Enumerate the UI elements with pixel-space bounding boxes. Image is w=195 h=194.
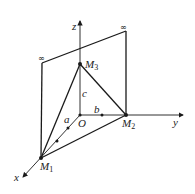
segment-b-label: b xyxy=(94,104,100,115)
x-axis-label: x xyxy=(14,172,19,183)
segment-c-label: c xyxy=(82,88,87,99)
point-a-mark xyxy=(67,127,70,130)
axes xyxy=(23,21,183,177)
point-m3 xyxy=(78,62,82,66)
m3-label: M3 xyxy=(85,59,98,72)
z-axis-label: z xyxy=(72,21,76,32)
diagram-svg xyxy=(0,0,195,194)
origin-label: O xyxy=(78,118,86,129)
diagram-canvas: z y x O M3 M2 M1 a b c ∞ ∞ xyxy=(0,0,195,194)
infinity-mark-right: ∞ xyxy=(120,24,127,32)
m1-label: M1 xyxy=(40,161,53,174)
point-b-mark xyxy=(101,114,104,117)
infinity-mark-left: ∞ xyxy=(38,55,45,63)
segment-a-label: a xyxy=(64,114,70,125)
m2-label: M2 xyxy=(122,118,135,131)
y-axis-label: y xyxy=(173,117,178,128)
point-a-mark2 xyxy=(56,140,59,143)
